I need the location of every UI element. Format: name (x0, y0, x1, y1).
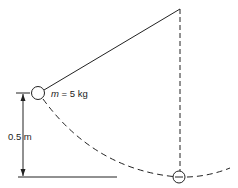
pendulum-bob (32, 87, 45, 100)
mass-label: m = 5 kg (51, 88, 88, 99)
mass-symbol: m (51, 88, 59, 99)
pendulum-string (44, 9, 180, 90)
swing-arc (43, 99, 230, 177)
pendulum-diagram: 0.5 m m = 5 kg (0, 0, 238, 188)
height-label: 0.5 m (8, 131, 32, 142)
mass-value: = 5 kg (59, 88, 88, 99)
dimension-arrow-down (21, 169, 26, 176)
dimension-arrow-up (21, 94, 26, 101)
